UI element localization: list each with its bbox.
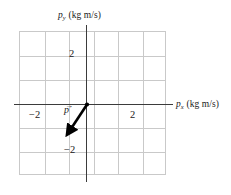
x-axis-line [14,104,173,105]
vector-arrow-accent: → [65,102,73,110]
momentum-vector-figure: py (kg m/s) px (kg m/s) −2 2 2 −2 → p [0,0,231,195]
x-tick-label-positive-2: 2 [130,109,135,120]
grid-line-horizontal [20,128,165,129]
y-axis-line [86,25,87,182]
grid-line-horizontal [20,152,165,153]
x-axis-title-units: (kg m/s) [186,99,219,109]
y-tick-label-positive-2: 2 [69,48,74,59]
y-axis-title-units: (kg m/s) [68,10,101,20]
vector-label-p: → p [64,104,69,115]
x-axis-title-subscript: x [181,103,184,110]
x-axis-title: px (kg m/s) [176,99,219,110]
y-axis-title-subscript: y [63,14,66,21]
y-tick-label-negative-2: −2 [64,144,75,155]
grid-line-horizontal [20,56,165,57]
grid-line-horizontal [20,80,165,81]
plot-grid [19,31,166,175]
x-tick-label-negative-2: −2 [29,109,40,120]
y-axis-title: py (kg m/s) [58,10,101,21]
